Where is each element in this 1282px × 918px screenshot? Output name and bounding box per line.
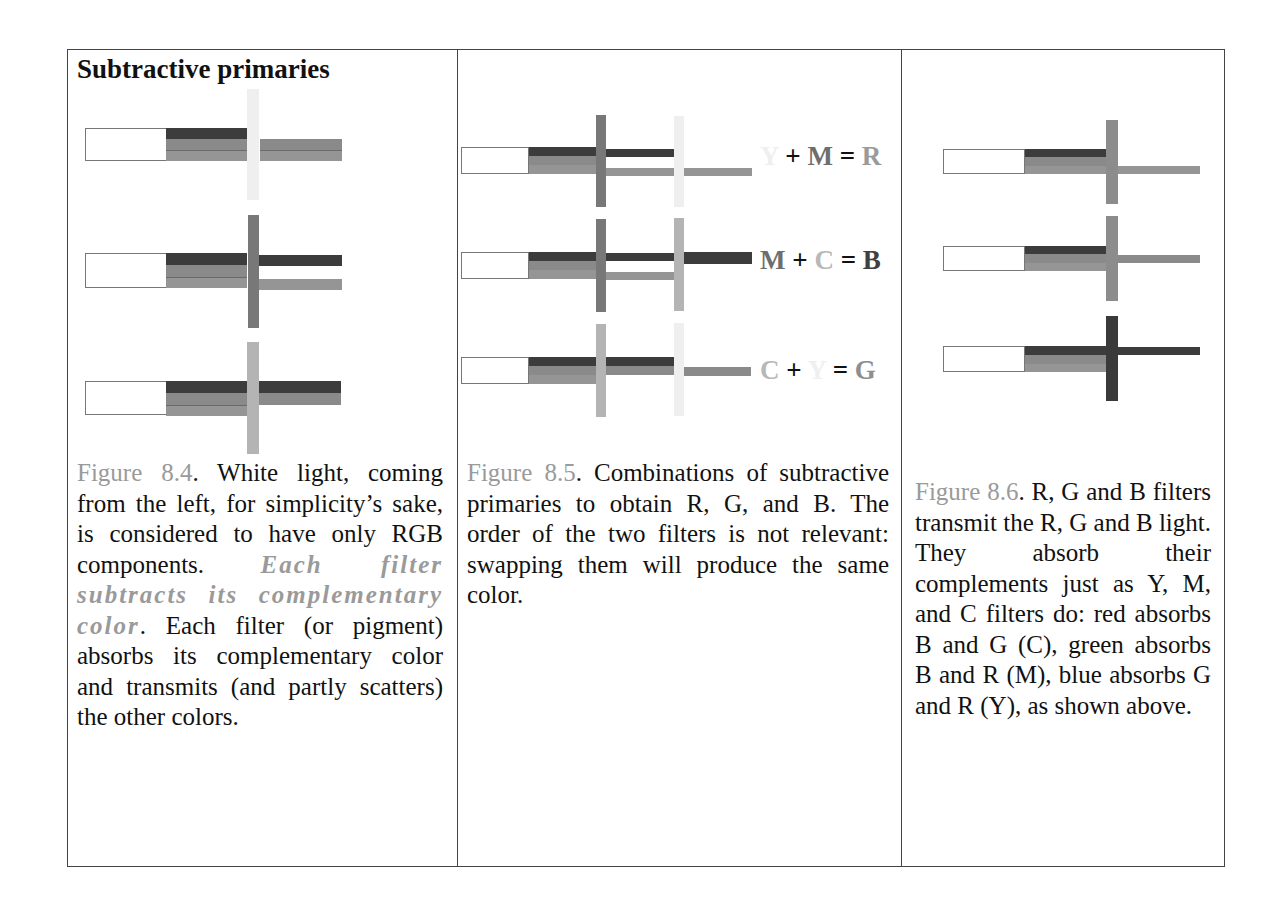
red-output [684, 168, 752, 176]
magenta-filter [596, 219, 606, 312]
blue-band [166, 381, 247, 393]
blue-band [529, 252, 596, 261]
blue-band [1025, 246, 1106, 254]
red-band [166, 150, 247, 161]
eq-term: M [807, 141, 832, 171]
eq-op: + [785, 141, 800, 171]
green-band [1025, 355, 1106, 364]
eq-term: Y [807, 355, 826, 385]
yellow-filter [674, 323, 684, 416]
white-light-box [461, 252, 529, 279]
red-transmitted [606, 272, 674, 280]
column-divider-1 [457, 49, 458, 867]
red-band [166, 405, 247, 416]
green-transmitted [606, 366, 674, 375]
red-filter [1106, 120, 1118, 204]
figure-label: Figure 8.5 [467, 459, 576, 486]
green-band [166, 265, 247, 277]
cyan-filter [596, 324, 606, 417]
blue-band [166, 128, 247, 139]
green-transmitted [260, 139, 342, 150]
blue-band [1025, 149, 1106, 157]
green-band [1025, 254, 1106, 263]
blue-filter [1106, 316, 1118, 401]
eq-op: + [792, 245, 807, 275]
green-filter [1106, 216, 1118, 301]
magenta-filter [248, 215, 259, 328]
blue-band [1025, 346, 1106, 355]
figure-8-6-caption: Figure 8.6. R, G and B filters transmit … [915, 477, 1211, 721]
red-band [166, 277, 247, 288]
band-separator [166, 405, 247, 406]
band-separator [260, 150, 342, 151]
green-band [529, 156, 596, 165]
eq-op: = [841, 245, 856, 275]
equation-m-c-b: M + C = B [760, 245, 881, 276]
red-transmitted [260, 150, 342, 161]
white-light-box [85, 253, 167, 288]
blue-output [684, 252, 752, 264]
white-light-box [85, 381, 167, 415]
red-band [529, 270, 596, 279]
green-band [166, 393, 247, 405]
eq-result: G [855, 355, 876, 385]
cyan-filter [247, 342, 259, 454]
eq-term: C [760, 355, 780, 385]
green-output [1118, 255, 1200, 263]
green-output [684, 367, 751, 376]
red-band [529, 375, 596, 384]
eq-term: M [760, 245, 785, 275]
white-light-box [85, 128, 167, 161]
yellow-filter [247, 89, 259, 200]
eq-op: = [833, 355, 848, 385]
blue-transmitted [259, 255, 342, 266]
green-band [529, 261, 596, 270]
green-band [1025, 157, 1106, 166]
column-divider-2 [901, 49, 902, 867]
eq-term: Y [760, 141, 779, 171]
figure-label: Figure 8.6 [915, 478, 1018, 505]
white-light-box [461, 357, 529, 384]
band-separator [166, 277, 247, 278]
blue-band [166, 253, 247, 265]
section-title: Subtractive primaries [77, 54, 330, 85]
red-band [1025, 263, 1106, 271]
red-band [1025, 166, 1106, 174]
equation-y-m-r: Y + M = R [760, 141, 881, 172]
yellow-filter [674, 116, 684, 207]
green-band [529, 366, 596, 375]
blue-transmitted [259, 381, 341, 393]
figure-label: Figure 8.4 [77, 459, 192, 486]
blue-band [529, 357, 596, 366]
figure-8-5-caption: Figure 8.5. Combinations of subtractive … [467, 458, 889, 611]
eq-term: C [814, 245, 834, 275]
equation-c-y-g: C + Y = G [760, 355, 876, 386]
blue-transmitted [606, 357, 674, 366]
white-light-box [461, 147, 529, 174]
red-transmitted [259, 279, 342, 290]
white-light-box [943, 149, 1025, 174]
eq-op: = [840, 141, 855, 171]
blue-transmitted [606, 149, 674, 157]
cyan-filter [674, 218, 684, 311]
red-output [1118, 166, 1200, 174]
magenta-filter [596, 115, 606, 207]
band-separator [166, 150, 247, 151]
white-light-box [943, 246, 1025, 271]
red-transmitted [606, 168, 674, 176]
eq-op: + [786, 355, 801, 385]
blue-transmitted [606, 253, 674, 261]
caption-text: . R, G and B filters transmit the R, G a… [915, 478, 1211, 719]
white-light-box [943, 346, 1025, 372]
red-band [1025, 364, 1106, 372]
blue-band [529, 147, 596, 156]
figure-8-4-caption: Figure 8.4. White light, coming from the… [77, 458, 443, 733]
green-band [166, 139, 247, 150]
green-transmitted [259, 393, 341, 405]
eq-result: R [862, 141, 882, 171]
red-band [529, 165, 596, 174]
blue-output [1118, 347, 1200, 355]
eq-result: B [863, 245, 881, 275]
